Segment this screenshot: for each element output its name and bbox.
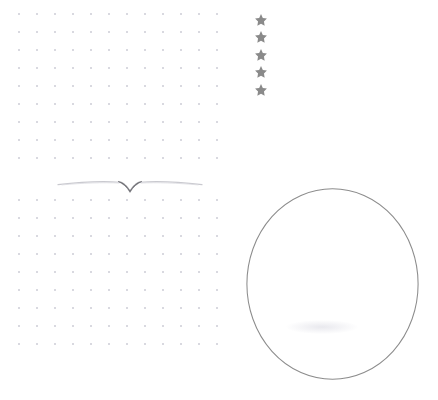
top-dot-grid [18,13,218,167]
chevron-divider-ornament [56,172,204,194]
star-icon[interactable] [254,13,268,27]
star-icon[interactable] [254,65,268,79]
star-rating[interactable] [254,13,276,97]
circle-svg [246,188,419,380]
divider-svg [56,172,204,194]
page-root [0,0,438,400]
star-icon[interactable] [254,83,268,97]
bottom-dot-grid [18,199,218,354]
star-icon[interactable] [254,48,268,62]
star-icon[interactable] [254,30,268,44]
circle-outline [246,188,419,380]
